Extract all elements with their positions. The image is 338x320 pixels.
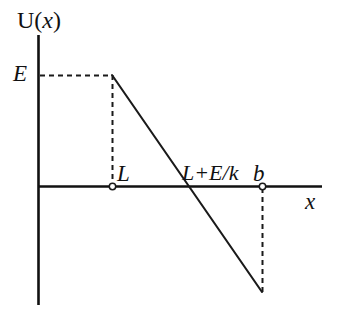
barrier-start-label: L — [117, 162, 130, 185]
y-axis-label-suffix: ) — [53, 7, 61, 33]
marker-point-L — [109, 183, 115, 189]
y-axis-label-prefix: U( — [17, 7, 42, 33]
turning-point-label: b — [253, 162, 265, 185]
y-axis-label: U(x) — [17, 8, 61, 32]
figure-canvas — [0, 0, 338, 320]
x-axis-label: x — [305, 190, 315, 213]
potential-energy-figure: U(x) E L L+E/k b x — [0, 0, 338, 320]
zero-crossing-label: L+E/k — [182, 162, 238, 184]
y-axis-label-variable: x — [42, 7, 53, 33]
energy-level-label: E — [13, 62, 27, 85]
